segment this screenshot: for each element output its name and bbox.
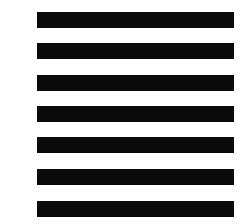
horizontal-bar-7 (37, 201, 234, 217)
horizontal-bar-1 (37, 12, 234, 28)
horizontal-bar-5 (37, 137, 234, 153)
horizontal-bar-3 (37, 75, 234, 91)
horizontal-bar-6 (37, 169, 234, 185)
horizontal-bar-2 (37, 43, 234, 59)
horizontal-bar-4 (37, 106, 234, 122)
striped-bars-figure (0, 0, 252, 224)
